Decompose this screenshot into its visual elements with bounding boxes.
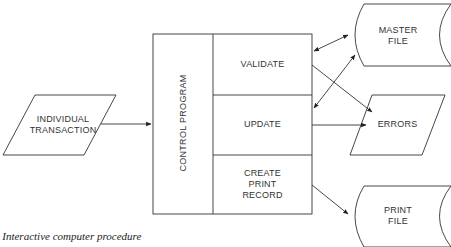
- arrow-print-record-to-print-file: [312, 185, 348, 214]
- label-line: RECORD: [213, 190, 312, 201]
- label-line: FILE: [363, 216, 433, 227]
- update-label: UPDATE: [213, 119, 312, 130]
- control-program-label: CONTROL PROGRAM: [178, 73, 188, 173]
- label-line: FILE: [363, 36, 433, 47]
- arrow-update-master: [314, 55, 355, 108]
- errors-label: ERRORS: [360, 119, 435, 130]
- figure-caption: 8 Interactive computer procedure: [0, 230, 141, 242]
- label-line: MASTER: [363, 25, 433, 36]
- print-file-label: PRINT FILE: [363, 205, 433, 227]
- master-file-label: MASTER FILE: [363, 25, 433, 47]
- individual-transaction-label: INDIVIDUAL TRANSACTION: [18, 114, 108, 136]
- label-line: CREATE: [213, 168, 312, 179]
- arrow-validate-master: [314, 35, 348, 51]
- label-line: TRANSACTION: [18, 125, 108, 136]
- label-line: PRINT: [363, 205, 433, 216]
- label-line: PRINT: [213, 179, 312, 190]
- label-line: INDIVIDUAL: [18, 114, 108, 125]
- create-print-record-label: CREATE PRINT RECORD: [213, 168, 312, 201]
- validate-label: VALIDATE: [213, 59, 312, 70]
